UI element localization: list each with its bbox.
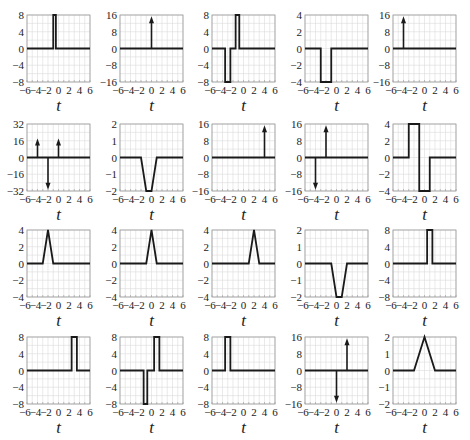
y-tick-label: 0 <box>297 365 303 377</box>
y-tick-label: −2 <box>12 274 24 286</box>
x-tick-label: 0 <box>422 84 428 96</box>
signal-plot-13: −4−2024−6−4−20246t <box>184 222 287 339</box>
y-tick-label: 4 <box>19 348 25 360</box>
x-tick-label: −2 <box>225 299 237 311</box>
x-tick-label: −2 <box>406 84 418 96</box>
impulse-arrow-icon <box>334 396 339 403</box>
x-tick-label: 4 <box>77 406 83 418</box>
x-tick-label: 0 <box>334 193 340 205</box>
y-tick-label: 8 <box>112 26 118 38</box>
x-tick-label: 6 <box>453 299 459 311</box>
y-tick-label: 1 <box>385 348 391 360</box>
y-tick-label: −2 <box>197 274 209 286</box>
x-tick-label: 6 <box>453 406 459 418</box>
y-tick-label: 4 <box>19 26 25 38</box>
y-tick-label: −2 <box>105 274 117 286</box>
y-tick-label: −8 <box>197 168 209 180</box>
x-axis-label: t <box>334 96 340 115</box>
y-tick-label: 2 <box>19 241 25 253</box>
y-tick-label: 0 <box>19 258 25 270</box>
y-tick-label: 4 <box>112 348 118 360</box>
impulse-arrow-icon <box>149 16 154 23</box>
y-tick-label: 2 <box>297 224 303 236</box>
y-tick-label: 1 <box>112 135 118 147</box>
x-tick-label: 2 <box>66 299 72 311</box>
x-tick-label: −2 <box>406 406 418 418</box>
y-tick-label: 0 <box>19 365 25 377</box>
x-tick-label: −2 <box>40 299 52 311</box>
x-tick-label: 4 <box>77 193 83 205</box>
x-tick-label: 2 <box>432 299 438 311</box>
y-tick-label: 0 <box>385 152 391 164</box>
x-axis-label: t <box>149 96 155 115</box>
x-tick-label: 4 <box>262 406 268 418</box>
x-tick-label: 0 <box>56 193 62 205</box>
y-tick-label: −4 <box>105 381 117 393</box>
x-tick-label: 4 <box>443 193 449 205</box>
impulse-arrow-icon <box>46 183 51 190</box>
x-tick-label: 2 <box>344 299 350 311</box>
x-tick-label: 0 <box>149 406 155 418</box>
y-tick-label: 8 <box>112 331 118 343</box>
x-tick-label: 4 <box>170 193 176 205</box>
x-tick-label: 4 <box>262 193 268 205</box>
x-tick-label: 0 <box>422 193 428 205</box>
x-axis-label: t <box>422 311 428 330</box>
y-tick-label: 2 <box>385 331 391 343</box>
x-tick-label: −2 <box>225 193 237 205</box>
x-axis-label: t <box>334 311 340 330</box>
x-tick-label: −2 <box>40 406 52 418</box>
x-axis-label: t <box>241 311 247 330</box>
y-tick-label: −8 <box>290 381 302 393</box>
y-tick-label: −16 <box>7 168 25 180</box>
x-axis-label: t <box>422 96 428 115</box>
y-tick-label: 4 <box>204 26 210 38</box>
x-tick-label: 4 <box>170 299 176 311</box>
x-tick-label: 4 <box>443 84 449 96</box>
signal-plot-8: −16−80816−6−4−20246t <box>184 116 287 233</box>
x-tick-label: 2 <box>344 406 350 418</box>
x-tick-label: 2 <box>344 84 350 96</box>
impulse-arrow-icon <box>345 338 350 345</box>
x-tick-label: −2 <box>133 406 145 418</box>
y-tick-label: 0 <box>112 365 118 377</box>
y-tick-label: 4 <box>204 348 210 360</box>
y-tick-label: −4 <box>378 274 390 286</box>
x-tick-label: 0 <box>56 406 62 418</box>
signal-plot-2: −16−80816−6−4−20246t <box>92 7 195 124</box>
x-tick-label: 2 <box>159 299 165 311</box>
x-tick-label: 0 <box>241 299 247 311</box>
y-tick-label: 0 <box>19 43 25 55</box>
x-tick-label: 0 <box>334 406 340 418</box>
x-tick-label: −2 <box>225 84 237 96</box>
y-tick-label: 0 <box>204 152 210 164</box>
x-tick-label: 0 <box>334 299 340 311</box>
impulse-arrow-icon <box>35 138 40 145</box>
x-tick-label: 2 <box>432 193 438 205</box>
y-tick-label: 0 <box>204 43 210 55</box>
y-tick-label: 1 <box>297 241 303 253</box>
y-tick-label: −1 <box>378 381 390 393</box>
y-tick-label: 0 <box>112 258 118 270</box>
x-tick-label: 4 <box>355 299 361 311</box>
y-tick-label: 0 <box>297 43 303 55</box>
x-tick-label: 6 <box>453 193 459 205</box>
y-tick-label: 0 <box>385 43 391 55</box>
x-tick-label: 4 <box>443 406 449 418</box>
signal-plot-17: −8−4048−6−4−20246t <box>92 329 195 440</box>
x-tick-label: 2 <box>159 406 165 418</box>
y-tick-label: 4 <box>19 224 25 236</box>
y-tick-label: −4 <box>197 381 209 393</box>
y-tick-label: −2 <box>290 59 302 71</box>
x-tick-label: −2 <box>318 406 330 418</box>
x-tick-label: −2 <box>318 193 330 205</box>
x-tick-label: 2 <box>251 193 257 205</box>
x-tick-label: 2 <box>344 193 350 205</box>
x-tick-label: 0 <box>149 193 155 205</box>
y-tick-label: 2 <box>297 26 303 38</box>
x-tick-label: 0 <box>422 299 428 311</box>
x-tick-label: 4 <box>262 299 268 311</box>
x-tick-label: −2 <box>133 193 145 205</box>
x-tick-label: 2 <box>251 406 257 418</box>
y-tick-label: 8 <box>19 9 25 21</box>
